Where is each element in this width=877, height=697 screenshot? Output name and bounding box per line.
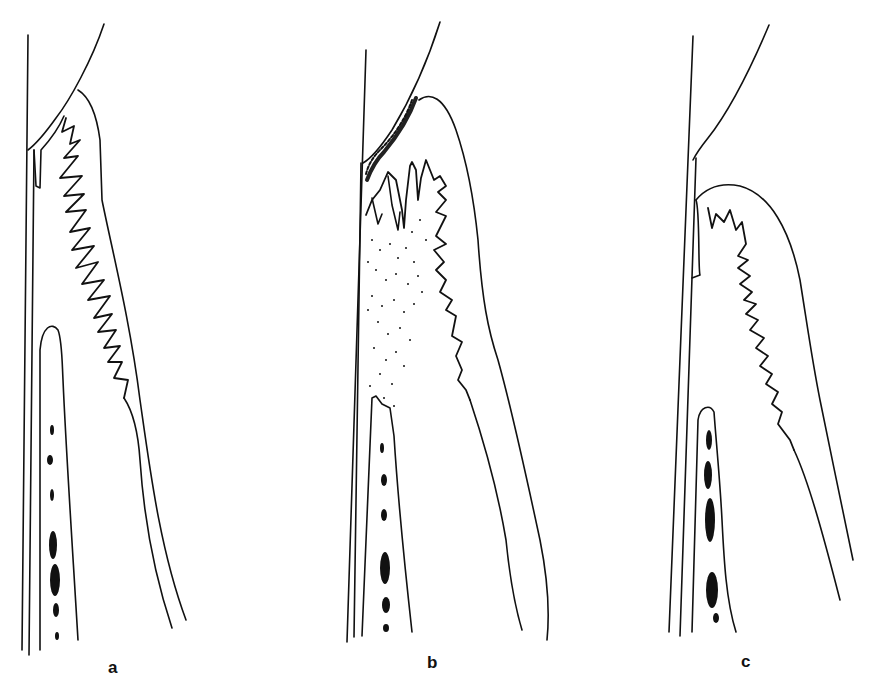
panel-c-drawing [669,25,853,636]
bone-marrow-stipple-b [380,443,390,632]
bone-marrow-stipple-c [704,430,719,623]
inflammation-stipple [367,219,427,407]
panel-b-drawing [347,22,548,642]
panel-label-a: a [108,658,117,678]
bone-marrow-stipple [47,425,60,640]
panel-a-drawing [22,24,186,655]
figure-canvas [0,0,877,697]
panel-label-b: b [427,653,437,673]
panel-label-c: c [741,652,750,672]
